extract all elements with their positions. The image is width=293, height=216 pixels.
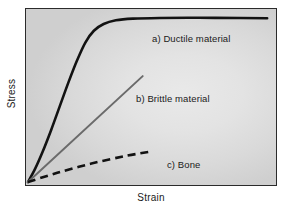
curve-c-bone [28, 151, 152, 182]
x-axis-title: Strain [25, 192, 277, 203]
curve-label-brittle: b) Brittle material [136, 93, 210, 104]
plot-area: a) Ductile material b) Brittle material … [25, 8, 277, 186]
stress-strain-figure: a) Ductile material b) Brittle material … [0, 0, 293, 216]
curve-label-ductile: a) Ductile material [152, 33, 230, 44]
y-axis-title-text: Stress [7, 78, 18, 108]
curve-label-bone: c) Bone [167, 159, 200, 170]
y-axis-title: Stress [0, 0, 24, 186]
